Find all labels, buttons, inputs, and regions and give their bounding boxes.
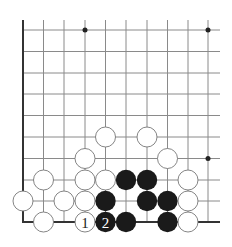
white-stone [178,212,198,232]
white-stone [34,170,54,190]
white-stone-icon [75,191,95,211]
white-stone-icon [13,191,33,211]
black-stone-icon [95,191,115,211]
black-stone-icon [157,191,177,211]
white-stone: 1 [75,212,95,232]
black-stone [95,191,115,211]
star-point [83,28,88,33]
white-stone-icon [158,149,178,169]
white-stone-icon [178,170,198,190]
black-stone [116,170,136,190]
white-stone-icon [137,127,157,147]
white-stone-icon [54,191,74,211]
white-stone [75,191,95,211]
white-stone-icon [178,212,198,232]
black-stone-icon [137,191,157,211]
white-stone-icon [96,170,116,190]
white-stone-icon [75,149,95,169]
white-stone [13,191,33,211]
white-stone [96,170,116,190]
move-number-label: 1 [81,215,89,231]
star-point [206,156,211,161]
white-stone-icon [96,127,116,147]
black-stone-icon [157,212,177,232]
black-stone-icon [116,170,136,190]
white-stone-icon [75,170,95,190]
white-stone [54,191,74,211]
move-number-label: 2 [102,215,110,231]
white-stone-icon [34,212,54,232]
star-point [206,28,211,33]
white-stone [75,170,95,190]
black-stone [137,170,157,190]
black-stone: 2 [95,212,115,232]
white-stone [178,191,198,211]
white-stone [137,127,157,147]
black-stone-icon [137,170,157,190]
go-board-diagram: 12 [0,0,232,247]
black-stone-icon [116,212,136,232]
white-stone [75,149,95,169]
black-stone [157,212,177,232]
white-stone [96,127,116,147]
black-stone [137,191,157,211]
white-stone-icon [178,191,198,211]
white-stone [158,149,178,169]
white-stone [34,212,54,232]
white-stone [178,170,198,190]
black-stone [116,212,136,232]
white-stone-icon [34,170,54,190]
black-stone [157,191,177,211]
